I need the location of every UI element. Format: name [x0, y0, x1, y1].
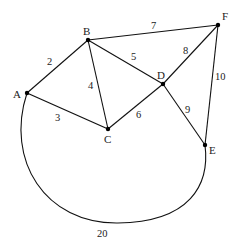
edge-a-e-curved	[21, 93, 206, 223]
node-label-c: C	[104, 133, 111, 145]
node-d	[161, 82, 165, 86]
weight-b-f: 7	[151, 20, 156, 31]
edge-a-c	[27, 93, 108, 129]
node-f	[216, 23, 220, 27]
weight-c-d: 6	[136, 109, 141, 120]
edge-b-d	[88, 40, 163, 84]
weight-a-b: 2	[47, 56, 52, 67]
node-label-d: D	[157, 69, 165, 81]
node-b	[86, 38, 90, 42]
weight-a-c: 3	[55, 112, 60, 123]
weight-a-e: 20	[97, 228, 108, 239]
weight-b-d: 5	[131, 51, 136, 62]
node-label-e: E	[209, 144, 216, 156]
node-label-a: A	[13, 88, 21, 100]
edge-d-e	[163, 84, 205, 145]
edge-c-d	[108, 84, 163, 129]
weight-b-c: 4	[88, 80, 94, 91]
node-label-f: F	[222, 10, 228, 22]
weight-d-f: 8	[183, 45, 188, 56]
edge-f-e	[205, 25, 218, 145]
graph-diagram: A B C D E F 2 3 4 5 6 7 8 9 10 20	[0, 0, 237, 246]
node-a	[25, 91, 29, 95]
node-e	[203, 143, 207, 147]
edge-d-f	[163, 25, 218, 84]
edge-a-b	[27, 40, 88, 93]
weight-f-e: 10	[215, 71, 226, 82]
node-label-b: B	[83, 25, 90, 37]
node-c	[106, 127, 110, 131]
weight-d-e: 9	[185, 104, 190, 115]
